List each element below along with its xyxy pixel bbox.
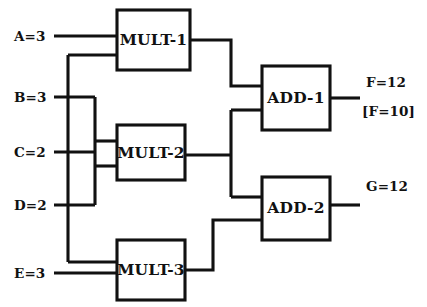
output-label-F-alternate: [F=10] xyxy=(362,103,415,119)
wire-group-internal xyxy=(185,40,262,270)
input-label-E: E=3 xyxy=(14,265,45,281)
gate-add-2[interactable]: ADD-2 xyxy=(262,177,330,240)
input-label-D: D=2 xyxy=(14,197,47,213)
gate-add-1-label: ADD-1 xyxy=(266,88,324,107)
input-label-A: A=3 xyxy=(14,28,45,44)
gate-mult-1-label: MULT-1 xyxy=(120,30,188,49)
wire-group-inputs xyxy=(54,36,117,273)
output-label-F: F=12 xyxy=(366,74,406,90)
gate-add-1[interactable]: ADD-1 xyxy=(262,66,330,130)
gate-add-2-label: ADD-2 xyxy=(266,198,324,217)
wire-mult1-to-add1 xyxy=(190,40,262,86)
wire-group-outputs xyxy=(330,98,360,205)
gate-mult-2[interactable]: MULT-2 xyxy=(117,125,185,180)
input-label-C: C=2 xyxy=(14,144,46,160)
gate-mult-1[interactable]: MULT-1 xyxy=(117,10,190,70)
wire-mult3-to-add2 xyxy=(185,220,262,270)
gate-mult-3[interactable]: MULT-3 xyxy=(117,240,185,300)
output-label-G: G=12 xyxy=(366,178,408,194)
diagram-canvas: MULT-1 MULT-2 MULT-3 ADD-1 ADD-2 A=3 B=3… xyxy=(0,0,427,307)
gate-mult-3-label: MULT-3 xyxy=(117,260,185,279)
circuit-diagram: MULT-1 MULT-2 MULT-3 ADD-1 ADD-2 xyxy=(0,0,427,307)
gate-mult-2-label: MULT-2 xyxy=(117,143,185,162)
input-label-B: B=3 xyxy=(14,89,46,105)
